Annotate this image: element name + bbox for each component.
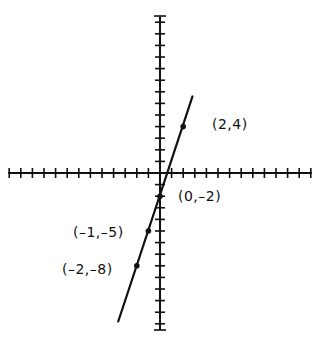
point-label-2-4: (2,4) bbox=[212, 117, 248, 131]
point-label-neg2-neg8: (–2,–8) bbox=[62, 262, 113, 276]
plotted-line bbox=[118, 96, 192, 321]
data-point bbox=[146, 228, 152, 234]
coordinate-graph bbox=[0, 0, 317, 341]
data-point bbox=[134, 263, 140, 269]
point-label-0-neg2: (0,–2) bbox=[178, 189, 221, 203]
point-label-neg1-neg5: (–1,–5) bbox=[73, 225, 124, 239]
data-point bbox=[157, 193, 163, 199]
data-point bbox=[180, 124, 186, 130]
